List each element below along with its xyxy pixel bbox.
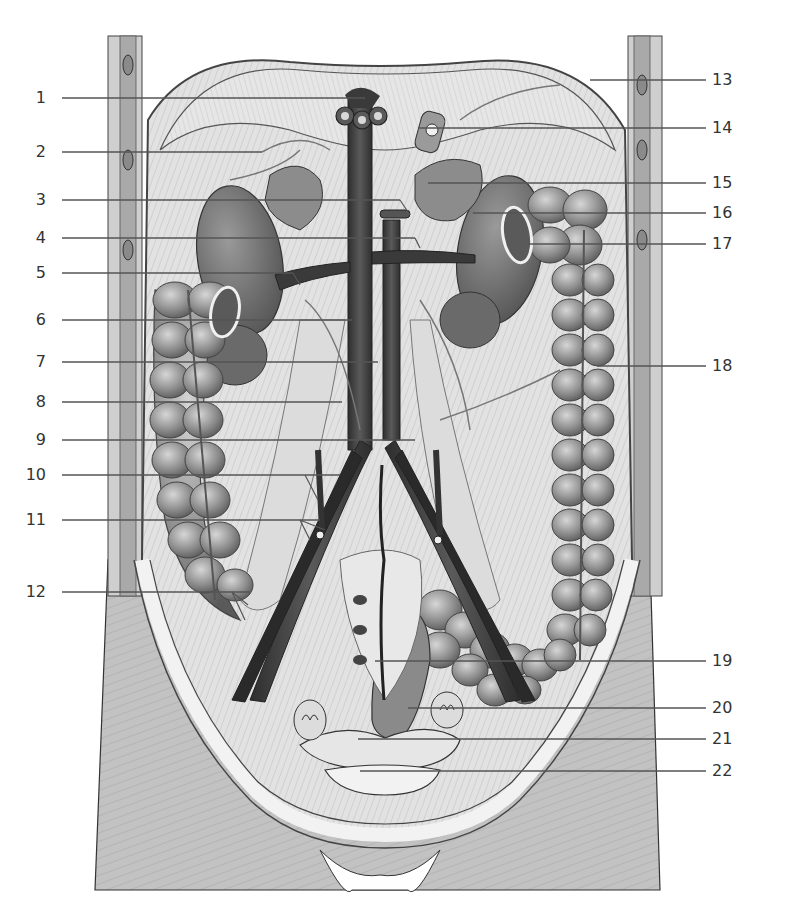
label-6: 6 <box>6 312 46 328</box>
label-2: 2 <box>6 144 46 160</box>
label-13: 13 <box>712 72 752 88</box>
label-22: 22 <box>712 763 752 779</box>
label-8: 8 <box>6 394 46 410</box>
label-14: 14 <box>712 120 752 136</box>
label-12: 12 <box>6 584 46 600</box>
label-11: 11 <box>6 512 46 528</box>
label-3: 3 <box>6 192 46 208</box>
label-19: 19 <box>712 653 752 669</box>
label-5: 5 <box>6 265 46 281</box>
label-9: 9 <box>6 432 46 448</box>
label-7: 7 <box>6 354 46 370</box>
label-20: 20 <box>712 700 752 716</box>
label-1: 1 <box>6 90 46 106</box>
anatomical-figure <box>0 0 791 911</box>
label-4: 4 <box>6 230 46 246</box>
label-18: 18 <box>712 358 752 374</box>
label-17: 17 <box>712 236 752 252</box>
label-21: 21 <box>712 731 752 747</box>
label-16: 16 <box>712 205 752 221</box>
label-15: 15 <box>712 175 752 191</box>
label-10: 10 <box>6 467 46 483</box>
